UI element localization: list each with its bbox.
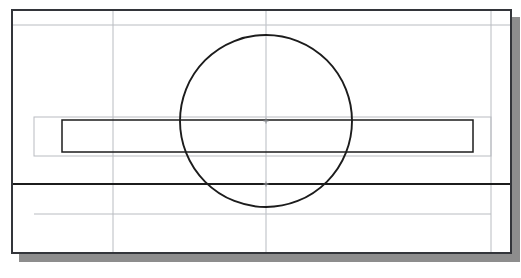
drawing-area-frame[interactable]	[11, 9, 512, 254]
screenshot-canvas	[0, 0, 521, 278]
